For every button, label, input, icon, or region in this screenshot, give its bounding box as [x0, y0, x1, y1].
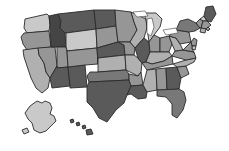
- state-colorado[interactable]: [67, 48, 98, 67]
- state-kansas[interactable]: [98, 55, 126, 72]
- state-new-mexico[interactable]: [68, 65, 87, 88]
- state-utah[interactable]: [57, 47, 68, 68]
- state-wyoming[interactable]: [66, 29, 97, 51]
- state-hawaii-island-1[interactable]: [70, 119, 74, 123]
- state-hawaii-island-3[interactable]: [82, 125, 86, 129]
- state-hawaii-island-2[interactable]: [76, 122, 80, 126]
- us-choropleth-map-figure: [0, 0, 229, 151]
- us-map-svg: [0, 0, 229, 151]
- state-alabama[interactable]: [156, 68, 167, 90]
- state-connecticut[interactable]: [200, 28, 206, 33]
